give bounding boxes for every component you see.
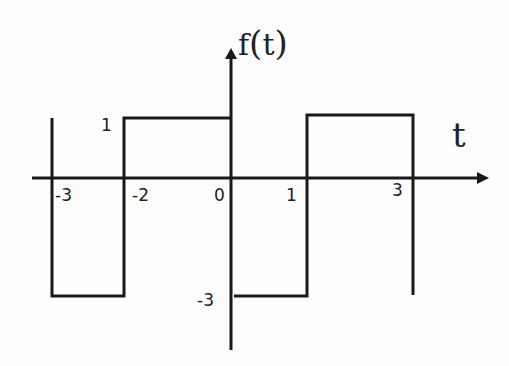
waveform-segment-left bbox=[52, 118, 231, 296]
y-tick-label: -3 bbox=[197, 292, 214, 309]
x-tick-label: 1 bbox=[286, 187, 297, 204]
y-axis-arrow-icon bbox=[225, 48, 237, 59]
x-tick-label: 3 bbox=[392, 182, 403, 199]
x-tick-label: 0 bbox=[214, 187, 225, 204]
x-tick-label: -2 bbox=[132, 187, 149, 204]
x-axis-title: t bbox=[452, 118, 466, 152]
y-axis-title-name: f bbox=[238, 27, 249, 62]
y-axis-title-var: t bbox=[262, 27, 274, 62]
y-tick-label: 1 bbox=[101, 117, 112, 134]
x-axis bbox=[32, 172, 489, 184]
x-tick-label: -3 bbox=[55, 187, 72, 204]
x-axis-arrow-icon bbox=[477, 172, 489, 184]
waveform-segment-right bbox=[234, 115, 413, 296]
y-axis-title: f(t) bbox=[238, 26, 288, 60]
y-axis bbox=[225, 48, 237, 350]
signal-diagram: f(t) t -3 -2 0 1 3 1 -3 bbox=[0, 0, 509, 366]
y-axis-title-close-paren: ) bbox=[274, 23, 287, 63]
y-axis-title-open-paren: ( bbox=[249, 23, 262, 63]
